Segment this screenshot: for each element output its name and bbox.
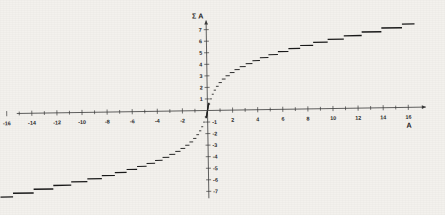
y-axis-title: Σ A <box>192 11 204 20</box>
x-tick-label: 12 <box>355 115 361 121</box>
x-tick-label: 14 <box>380 114 386 120</box>
y-tick-label: -7 <box>213 188 218 194</box>
y-tick-label: 7 <box>199 27 202 33</box>
x-tick-label: 2 <box>231 117 234 123</box>
x-tick-label: 16 <box>405 114 411 120</box>
x-tick-label: -10 <box>78 119 86 125</box>
y-tick-label: 4 <box>199 61 202 67</box>
y-tick-label: -1 <box>212 119 217 125</box>
x-tick-label: -14 <box>28 120 36 126</box>
x-axis-arrowhead <box>422 105 426 109</box>
x-tick-label: -8 <box>105 119 110 125</box>
y-tick-label: -3 <box>212 142 217 148</box>
axes-group <box>15 17 427 201</box>
x-tick-label: 6 <box>281 116 284 122</box>
y-tick-label: 6 <box>199 38 202 44</box>
y-axis-arrowhead <box>204 20 208 24</box>
x-tick-label: -12 <box>53 119 61 125</box>
x-tick-label: 10 <box>330 115 336 121</box>
y-tick-label: 1 <box>200 96 203 102</box>
x-tick-label: -6 <box>130 118 135 124</box>
x-tick-label: -4 <box>155 118 160 124</box>
y-tick-label: 2 <box>200 84 203 90</box>
x-tick-label: 4 <box>256 116 259 122</box>
chart-figure: -16-14-12-10-8-6-4-2246810121416 7654321… <box>0 0 445 215</box>
y-tick-label: 5 <box>199 50 202 56</box>
y-tick-label: -4 <box>213 154 218 160</box>
x-axis-line <box>17 107 426 113</box>
y-tick-label: -5 <box>213 165 218 171</box>
y-tick-label: -2 <box>212 130 217 136</box>
x-tick-label: -16 <box>3 120 11 126</box>
x-tick-label: -2 <box>180 117 185 123</box>
x-axis-title: A <box>407 121 412 130</box>
y-tick-label: 3 <box>199 73 202 79</box>
y-tick-label: -6 <box>213 177 218 183</box>
x-tick-label: 8 <box>306 115 309 121</box>
plot-area: -16-14-12-10-8-6-4-2246810121416 7654321… <box>0 0 445 215</box>
scan-rotation-group: -16-14-12-10-8-6-4-2246810121416 7654321… <box>0 8 427 202</box>
